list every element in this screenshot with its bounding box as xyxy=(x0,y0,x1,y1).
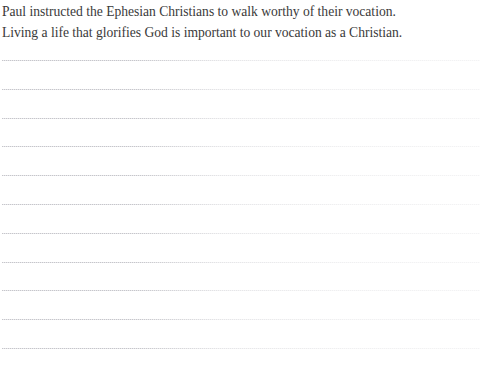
writing-line xyxy=(2,262,480,263)
writing-line xyxy=(2,175,480,176)
writing-line xyxy=(2,89,480,90)
writing-line xyxy=(2,118,480,119)
writing-line xyxy=(2,348,480,349)
writing-line xyxy=(2,233,480,234)
writing-line xyxy=(2,319,480,320)
writing-line xyxy=(2,204,480,205)
writing-lines xyxy=(0,0,485,366)
writing-line xyxy=(2,146,480,147)
writing-line xyxy=(2,60,480,61)
worksheet-page: Paul instructed the Ephesian Christians … xyxy=(0,0,485,366)
writing-line xyxy=(2,290,480,291)
